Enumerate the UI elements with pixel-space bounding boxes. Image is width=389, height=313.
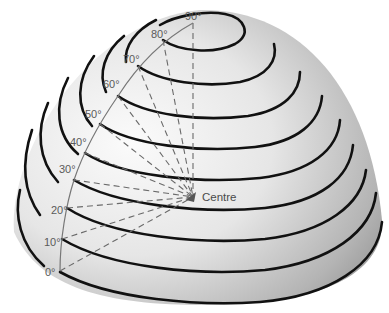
label-60: 60° [103,78,120,90]
label-20: 20° [51,204,68,216]
label-70: 70° [123,53,140,65]
label-40: 40° [70,136,87,148]
label-50: 50° [85,108,102,120]
label-0: 0° [45,266,56,278]
label-90: 90° [185,10,202,22]
label-10: 10° [44,236,61,248]
label-30: 30° [59,163,76,175]
centre-label: Centre [202,191,237,203]
label-80: 80° [151,28,168,40]
dome-surface [14,10,382,305]
hemisphere-diagram: 0° 10° 20° 30° 40° 50° 60° 70° 80° 90° C… [0,0,389,313]
